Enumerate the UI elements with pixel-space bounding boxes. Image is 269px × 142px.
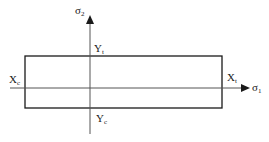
yt-label: Yt [94,43,104,56]
yc-sub: c [104,118,107,126]
sigma2-subscript: 2 [81,10,85,18]
xc-sub: c [17,79,20,87]
sigma2-arrow-icon [86,15,94,24]
sigma1-axis-label: σ1 [252,82,261,95]
xt-sub: t [235,77,237,85]
xt-label: Xt [227,72,237,85]
yc-label: Yc [96,113,107,126]
xc-main: X [9,73,17,85]
yt-sub: t [102,48,104,56]
yt-main: Y [94,42,102,54]
sigma1-subscript: 1 [258,87,262,95]
failure-envelope-rectangle [25,56,222,108]
yc-main: Y [96,112,104,124]
xt-main: X [227,71,235,83]
sigma2-axis-label: σ2 [75,5,84,18]
sigma1-arrow-icon [241,84,250,92]
xc-label: Xc [9,74,20,87]
